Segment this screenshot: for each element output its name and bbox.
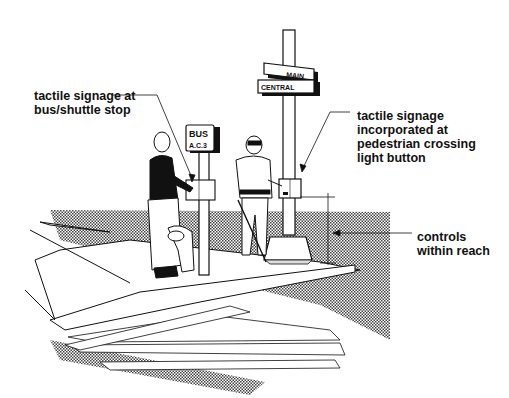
woman-with-guide-dog (148, 132, 194, 278)
illustration: MAIN CENTRAL BUS A.C.3 (0, 0, 509, 398)
callout-line: light button (357, 151, 476, 165)
svg-text:BUS: BUS (189, 129, 208, 139)
callout-line: incorporated at (357, 123, 476, 137)
callout-controls-reach: controls within reach (417, 230, 490, 258)
callout-line: controls (417, 230, 490, 244)
callout-bus-stop-signage: tactile signage at bus/shuttle stop (34, 89, 135, 117)
street-sign-central: CENTRAL (258, 80, 320, 96)
svg-text:CENTRAL: CENTRAL (261, 84, 295, 91)
callout-line: tactile signage at (34, 89, 135, 103)
crossing-button-box (279, 179, 301, 198)
callout-line: within reach (417, 244, 490, 258)
callout-crossing-signage: tactile signage incorporated at pedestri… (357, 109, 476, 165)
callout-line: tactile signage (357, 109, 476, 123)
leader-lines (112, 95, 350, 182)
callout-line: bus/shuttle stop (34, 103, 135, 117)
svg-text:A.C.3: A.C.3 (189, 142, 207, 149)
callout-line: pedestrian crossing (357, 137, 476, 151)
